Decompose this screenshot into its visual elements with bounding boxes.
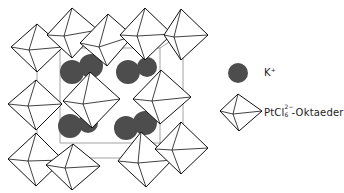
k-ion-legend-icon xyxy=(228,63,248,83)
oktaeder-suffix: -Oktaeder xyxy=(292,107,344,118)
octahedra xyxy=(8,8,208,190)
legend-label-octahedron: PtCl2−6-Oktaeder xyxy=(264,106,344,118)
octahedron xyxy=(8,80,62,130)
ptcl-subscript: 6 xyxy=(285,111,289,118)
ptcl-charge: 2− xyxy=(285,103,294,110)
k-charge: + xyxy=(271,66,276,73)
ptcl-indices: 2−6 xyxy=(285,106,292,116)
legend-label-k-ion: K+ xyxy=(264,66,276,78)
ptcl-label: PtCl xyxy=(264,107,285,118)
octahedron-legend-icon xyxy=(220,94,262,131)
octahedron xyxy=(164,9,208,60)
legend-symbols xyxy=(220,63,262,131)
k-label: K xyxy=(264,67,271,78)
